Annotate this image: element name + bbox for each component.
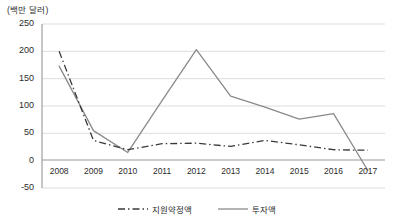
y-tick-label: -50 [4, 183, 34, 192]
solid-line-swatch-icon [218, 205, 248, 213]
plot-area [0, 0, 393, 218]
legend-item-1[interactable]: 투자액 [218, 203, 276, 215]
x-tick-label: 2017 [348, 167, 388, 176]
y-tick-label: 200 [4, 46, 34, 55]
line-chart: (백만 달러) 250200150100500-50 2008200920102… [0, 0, 393, 218]
series-line-투자액 [59, 50, 368, 171]
y-tick-label: 150 [4, 74, 34, 83]
gridlines [42, 24, 385, 188]
y-tick-label: 0 [4, 156, 34, 165]
y-tick-label: 250 [4, 19, 34, 28]
chart-legend: 지원약정액 투자액 [0, 203, 393, 215]
legend-label-1: 투자액 [252, 203, 276, 215]
series-line-지원약정액 [59, 51, 368, 150]
legend-label-0: 지원약정액 [152, 203, 192, 215]
legend-item-0[interactable]: 지원약정액 [118, 203, 192, 215]
y-tick-label: 100 [4, 101, 34, 110]
dash-dot-line-swatch-icon [118, 205, 148, 213]
y-tick-label: 50 [4, 128, 34, 137]
